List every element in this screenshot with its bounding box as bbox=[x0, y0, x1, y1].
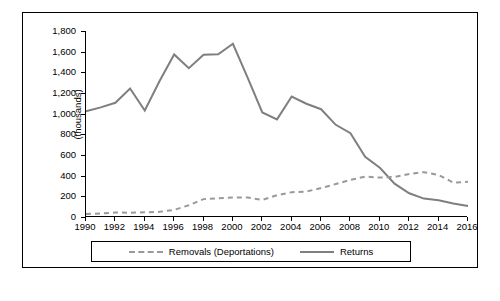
y-axis-tick-mark bbox=[81, 134, 85, 135]
x-axis-tick-label: 2002 bbox=[251, 221, 272, 232]
y-axis-tick-label: 200 bbox=[60, 191, 76, 201]
y-axis-tick-mark bbox=[81, 52, 85, 53]
series-lines bbox=[86, 31, 468, 217]
x-axis-tick-label: 2016 bbox=[456, 221, 477, 232]
legend-item-returns: Returns bbox=[300, 246, 373, 257]
y-axis-tick-mark bbox=[81, 72, 85, 73]
y-axis-tick-labels: 02004006008001,0001,2001,4001,6001,800 bbox=[23, 31, 81, 217]
x-axis-tick-mark bbox=[291, 217, 292, 221]
y-axis-tick-label: 400 bbox=[60, 171, 76, 181]
y-axis-tick-label: 1,000 bbox=[52, 109, 76, 119]
x-axis-tick-mark bbox=[144, 217, 145, 221]
x-axis-tick-mark bbox=[320, 217, 321, 221]
x-axis-tick-label: 2014 bbox=[427, 221, 448, 232]
x-axis-tick-mark bbox=[349, 217, 350, 221]
x-axis-tick-mark bbox=[467, 217, 468, 221]
x-axis-tick-label: 2000 bbox=[221, 221, 242, 232]
x-axis-tick-mark bbox=[408, 217, 409, 221]
y-axis-tick-mark bbox=[81, 31, 85, 32]
x-axis-tick-label: 2010 bbox=[368, 221, 389, 232]
y-axis-tick-mark bbox=[81, 93, 85, 94]
y-axis-tick-label: 600 bbox=[60, 150, 76, 160]
x-axis-tick-mark bbox=[173, 217, 174, 221]
legend-swatch-returns bbox=[300, 251, 334, 253]
x-axis-tick-label: 2006 bbox=[309, 221, 330, 232]
chart-container: (thousands) 02004006008001,0001,2001,400… bbox=[0, 0, 500, 301]
x-axis-tick-label: 2008 bbox=[339, 221, 360, 232]
legend-swatch-removals bbox=[129, 251, 163, 253]
legend-item-removals: Removals (Deportations) bbox=[129, 246, 274, 257]
x-axis-tick-labels: 1990199219941996199820002002200420062008… bbox=[85, 221, 467, 237]
x-axis-tick-mark bbox=[379, 217, 380, 221]
y-axis-tick-mark bbox=[81, 196, 85, 197]
y-axis-tick-label: 1,400 bbox=[52, 67, 76, 77]
x-axis-tick-label: 2012 bbox=[398, 221, 419, 232]
x-axis-tick-mark bbox=[203, 217, 204, 221]
legend-label-returns: Returns bbox=[340, 246, 373, 257]
y-axis-tick-label: 800 bbox=[60, 129, 76, 139]
y-axis-tick-mark bbox=[81, 176, 85, 177]
x-axis-tick-label: 1994 bbox=[133, 221, 154, 232]
y-axis-tick-label: 1,200 bbox=[52, 88, 76, 98]
x-axis-tick-label: 1990 bbox=[74, 221, 95, 232]
legend-label-removals: Removals (Deportations) bbox=[169, 246, 274, 257]
plot-area bbox=[85, 31, 467, 217]
x-axis-tick-mark bbox=[438, 217, 439, 221]
series-line-returns bbox=[86, 44, 468, 206]
x-axis-tick-label: 1998 bbox=[192, 221, 213, 232]
chart-legend: Removals (Deportations) Returns bbox=[91, 241, 411, 262]
x-axis-tick-mark bbox=[85, 217, 86, 221]
x-axis-tick-mark bbox=[232, 217, 233, 221]
x-axis-tick-label: 2004 bbox=[280, 221, 301, 232]
x-axis-tick-mark bbox=[114, 217, 115, 221]
x-axis-tick-mark bbox=[261, 217, 262, 221]
x-axis-tick-label: 1996 bbox=[163, 221, 184, 232]
x-axis-tick-label: 1992 bbox=[104, 221, 125, 232]
y-axis-tick-label: 1,600 bbox=[52, 47, 76, 57]
chart-frame: (thousands) 02004006008001,0001,2001,400… bbox=[22, 12, 478, 268]
y-axis-tick-label: 1,800 bbox=[52, 26, 76, 36]
y-axis-tick-mark bbox=[81, 155, 85, 156]
y-axis-tick-mark bbox=[81, 114, 85, 115]
